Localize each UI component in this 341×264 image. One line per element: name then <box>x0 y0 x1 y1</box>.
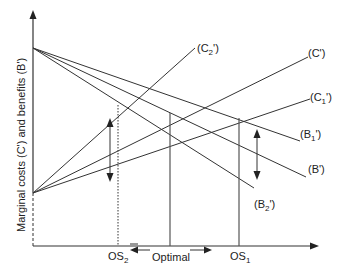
y-axis-label: Marginal costs (C') and benefits (B') <box>15 58 27 232</box>
y-axis-arrow-icon <box>30 10 37 19</box>
shift-arrow-left <box>107 118 114 182</box>
arrow-left-icon <box>130 247 138 254</box>
x-axis-arrow-icon <box>310 243 319 250</box>
label-c2: (C2') <box>197 42 219 57</box>
label-c: (C') <box>308 47 325 59</box>
cost-curves <box>33 48 310 193</box>
marginal-cost-benefit-diagram: Marginal costs (C') and benefits (B') (C… <box>0 0 341 264</box>
x-axis <box>33 243 319 250</box>
label-os2: OS2 <box>108 250 129 264</box>
curve-c2 <box>33 48 195 193</box>
label-os1: OS1 <box>230 250 251 264</box>
label-b1: (B1') <box>300 128 321 143</box>
y-axis <box>30 10 37 246</box>
curve-b2 <box>33 48 254 188</box>
arrow-up-icon <box>254 129 261 138</box>
optimal-label-line1: Optimal <box>152 251 190 263</box>
arrow-down-icon <box>254 171 261 180</box>
label-b: (B') <box>308 163 325 175</box>
label-b2: (B2') <box>254 198 275 213</box>
arrow-down-icon <box>107 173 114 182</box>
label-c1: (C1') <box>310 91 332 106</box>
arrow-right-icon <box>204 247 212 254</box>
